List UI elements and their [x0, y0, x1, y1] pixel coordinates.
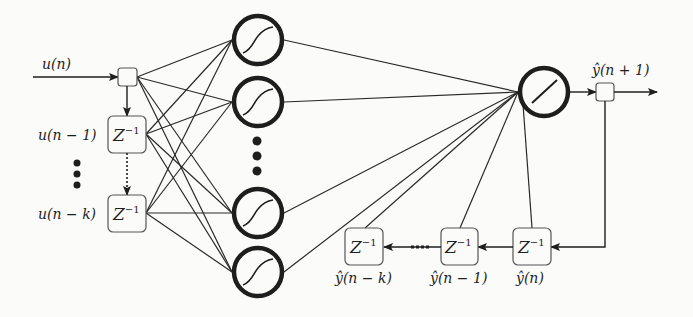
feedback-delay-operator-0: Z−1 — [518, 238, 545, 256]
feedback-output-connections — [365, 92, 532, 228]
input-delay-label-k: u(n − k) — [38, 207, 96, 221]
feedback-label-k: ŷ(n − k) — [335, 271, 392, 285]
input-delay-operator-k: Z−1 — [113, 205, 140, 223]
feedback-delay-operator-k: Z−1 — [350, 238, 377, 256]
hidden-output-connections — [284, 40, 518, 272]
feedback-label-0: ŷ(n) — [516, 271, 544, 285]
output-neuron — [520, 68, 568, 116]
input-delay-label-1: u(n − 1) — [38, 128, 97, 142]
output-label: ŷ(n + 1) — [592, 63, 649, 77]
input-hidden-connections — [137, 40, 232, 272]
input-node — [118, 68, 137, 86]
hidden-neuron-2 — [234, 78, 282, 126]
hidden-neuron-1 — [234, 16, 282, 64]
input-ellipsis-icon — [74, 160, 81, 189]
hidden-ellipsis-icon — [253, 137, 262, 176]
input-label: u(n) — [42, 57, 71, 71]
hidden-neuron-4 — [234, 248, 282, 296]
input-delay-operator-1: Z−1 — [113, 126, 140, 144]
feedback-line — [551, 101, 605, 247]
feedback-delay-operator-1: Z−1 — [445, 238, 472, 256]
hidden-neuron-3 — [234, 189, 282, 237]
narx-diagram: u(n) u(n − 1) u(n − k) Z−1 Z−1 ŷ(n + 1) … — [0, 0, 693, 317]
output-node — [596, 83, 614, 101]
feedback-label-1: ŷ(n − 1) — [430, 271, 487, 285]
hidden-layer — [234, 16, 282, 296]
